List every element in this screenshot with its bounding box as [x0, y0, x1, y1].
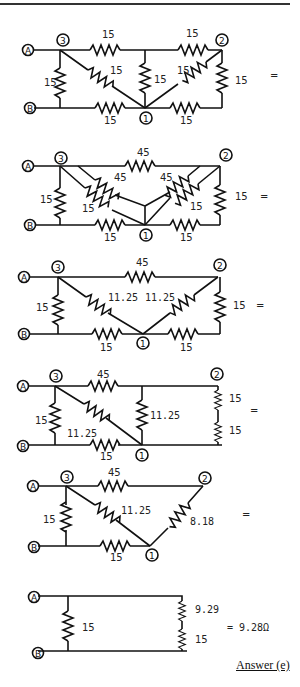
resistor-icon	[90, 440, 120, 450]
resistor-icon	[170, 220, 200, 230]
svg-text:15: 15	[154, 74, 167, 85]
svg-text:45: 45	[114, 172, 127, 183]
svg-text:15: 15	[36, 302, 49, 313]
svg-text:15: 15	[177, 65, 190, 76]
svg-text:2: 2	[202, 474, 208, 484]
resistor-icon	[95, 103, 125, 113]
svg-text:15: 15	[180, 342, 193, 353]
resistor-icon	[92, 501, 122, 526]
resistor-icon	[125, 161, 155, 171]
resistor-icon	[217, 63, 227, 93]
svg-text:11.25: 11.25	[145, 292, 175, 303]
svg-text:2: 2	[219, 36, 225, 46]
svg-text:=: =	[260, 191, 268, 202]
resistor-icon	[168, 329, 198, 339]
svg-text:11.25: 11.25	[150, 410, 180, 421]
svg-text:45: 45	[160, 172, 173, 183]
svg-text:3: 3	[58, 154, 64, 164]
svg-text:15: 15	[235, 191, 248, 202]
svg-text:8.18: 8.18	[190, 516, 214, 527]
svg-text:B: B	[21, 330, 27, 340]
svg-text:A: A	[21, 273, 28, 283]
svg-text:= 9.28Ω: = 9.28Ω	[227, 622, 269, 633]
circuit-diagrams: A B 3 2 1 15 15 15 15 15 15 15 15 15 =	[0, 0, 300, 687]
resistor-icon	[179, 629, 186, 649]
svg-text:15: 15	[44, 77, 57, 88]
resistor-icon	[140, 63, 150, 93]
svg-text:=: =	[270, 70, 278, 81]
svg-text:=: =	[256, 300, 264, 311]
resistor-icon	[92, 329, 122, 339]
svg-text:2: 2	[223, 151, 229, 161]
svg-text:3: 3	[60, 36, 66, 46]
resistor-icon	[215, 185, 225, 215]
svg-text:B: B	[35, 649, 41, 659]
svg-text:45: 45	[136, 257, 149, 268]
svg-text:B: B	[20, 442, 26, 452]
svg-text:1: 1	[139, 451, 145, 461]
svg-text:3: 3	[53, 372, 59, 382]
svg-text:15: 15	[110, 552, 123, 563]
svg-text:45: 45	[137, 147, 150, 158]
resistor-icon	[55, 188, 65, 218]
resistor-icon	[81, 400, 112, 425]
svg-text:15: 15	[102, 29, 115, 40]
svg-text:15: 15	[43, 514, 56, 525]
svg-text:15: 15	[35, 415, 48, 426]
resistor-icon	[215, 292, 225, 322]
svg-text:15: 15	[233, 300, 246, 311]
resistor-icon	[170, 103, 200, 113]
svg-text:3: 3	[64, 473, 70, 483]
svg-text:45: 45	[97, 369, 110, 380]
svg-text:=: =	[242, 509, 250, 520]
resistor-icon	[50, 403, 60, 433]
resistor-icon	[166, 500, 192, 530]
resistor-icon	[178, 45, 208, 55]
resistor-icon	[137, 400, 147, 430]
svg-text:B: B	[27, 221, 33, 231]
svg-text:15: 15	[190, 201, 203, 212]
svg-text:15: 15	[186, 28, 199, 39]
svg-text:1: 1	[143, 231, 149, 241]
circuit-step-5: A B 3 2 1 45 15 11.25 8.18 15 =	[28, 467, 251, 563]
svg-text:11.25: 11.25	[121, 505, 151, 516]
circuit-step-6: A B 15 9.29 15 = 9.28Ω	[29, 592, 270, 659]
svg-text:15: 15	[195, 634, 208, 645]
resistor-icon	[53, 295, 63, 325]
svg-text:11.25: 11.25	[108, 292, 138, 303]
resistor-icon	[88, 381, 118, 391]
resistor-icon	[90, 45, 120, 55]
svg-text:B: B	[31, 543, 37, 553]
resistor-icon	[100, 541, 130, 551]
svg-text:A: A	[31, 593, 38, 603]
resistor-icon	[63, 611, 73, 641]
svg-text:11.25: 11.25	[67, 428, 97, 439]
svg-text:A: A	[20, 382, 27, 392]
svg-text:3: 3	[55, 263, 61, 273]
resistor-icon	[95, 220, 125, 230]
svg-text:A: A	[30, 482, 37, 492]
resistor-icon	[215, 422, 222, 442]
svg-text:1: 1	[143, 114, 149, 124]
svg-text:1: 1	[149, 551, 155, 561]
resistor-icon	[179, 601, 186, 621]
circuit-step-4: A B 3 2 1 45 15 11.25 11.25 15 15 15 =	[18, 368, 259, 462]
svg-text:45: 45	[108, 467, 121, 478]
svg-text:2: 2	[217, 261, 223, 271]
resistor-icon	[61, 502, 71, 532]
svg-text:15: 15	[82, 622, 95, 633]
svg-text:1: 1	[140, 339, 146, 349]
svg-text:15: 15	[82, 203, 95, 214]
resistor-icon	[98, 481, 128, 491]
resistor-icon	[125, 272, 155, 282]
svg-text:15: 15	[180, 115, 193, 126]
svg-text:15: 15	[100, 342, 113, 353]
svg-text:15: 15	[235, 75, 248, 86]
svg-text:=: =	[250, 405, 258, 416]
svg-text:15: 15	[229, 425, 242, 436]
circuit-step-2: A B 3 2 1 45 15 45 15 45 15 15 15 15 =	[23, 147, 269, 243]
svg-text:15: 15	[229, 393, 242, 404]
svg-text:B: B	[27, 104, 33, 114]
svg-text:15: 15	[100, 451, 113, 462]
circuit-step-1: A B 3 2 1 15 15 15 15 15 15 15 15 15 =	[23, 28, 279, 126]
